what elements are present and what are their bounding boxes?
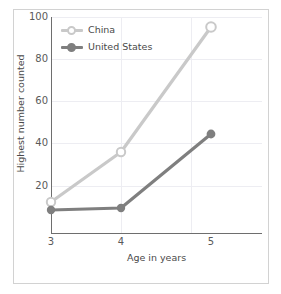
gridline-horizontal — [51, 59, 262, 60]
x-tick-4: 4 — [111, 236, 131, 247]
x-tick-3: 3 — [41, 236, 61, 247]
y-tick-20: 20 — [35, 181, 48, 191]
legend-item-united-states: United States — [61, 39, 181, 54]
legend-item-china: China — [61, 22, 181, 37]
x-axis-title: Age in years — [51, 252, 262, 263]
chart-figure: 100 80 60 40 20 3 4 5 Highest number cou… — [0, 0, 281, 294]
gridline-horizontal — [51, 101, 262, 102]
legend-label-united-states: United States — [88, 41, 152, 53]
legend-label-china: China — [88, 24, 115, 36]
x-tick-5: 5 — [201, 236, 221, 247]
y-tick-40: 40 — [35, 138, 48, 148]
gridline-horizontal — [51, 186, 262, 187]
chart-legend: China United States — [61, 22, 181, 56]
gridline-horizontal — [51, 17, 262, 18]
y-tick-60: 60 — [35, 96, 48, 106]
gridline-horizontal — [51, 143, 262, 144]
y-tick-100: 100 — [29, 12, 48, 22]
legend-marker-open-circle-icon — [61, 24, 83, 36]
x-axis-line — [51, 233, 262, 234]
gridline-vertical — [191, 17, 192, 234]
y-tick-80: 80 — [35, 54, 48, 64]
y-axis-title: Highest number counted — [15, 49, 26, 179]
legend-marker-filled-circle-icon — [61, 41, 83, 53]
y-axis-line — [51, 17, 52, 234]
